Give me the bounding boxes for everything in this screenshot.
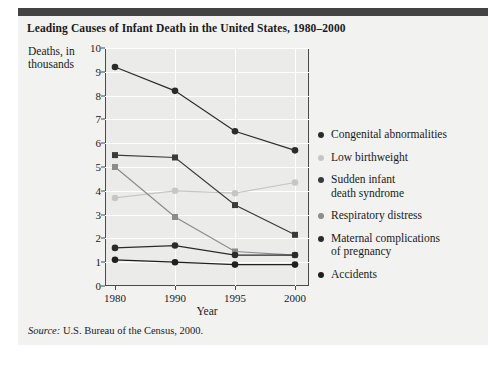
data-point: [232, 261, 239, 268]
legend-marker-icon: [318, 236, 324, 242]
legend-item-label: Maternal complications of pregnancy: [331, 232, 493, 259]
source-value: U.S. Bureau of the Census, 2000.: [60, 325, 203, 336]
legend-item[interactable]: Respiratory distress: [318, 209, 493, 223]
data-point: [172, 188, 179, 195]
data-point: [112, 195, 119, 202]
series-1: [112, 179, 299, 201]
plot-area: 012345678910 1980199019952000: [105, 48, 309, 286]
x-tick-label: 1980: [104, 292, 126, 304]
legend-marker-icon: [318, 177, 324, 183]
legend-marker-icon: [318, 272, 324, 278]
data-point: [232, 190, 239, 197]
series-5: [112, 257, 299, 268]
legend-item-label: Low birthweight: [331, 151, 493, 165]
source-label: Source:: [28, 325, 60, 336]
x-tick-label: 1995: [224, 292, 246, 304]
source-note: Source: U.S. Bureau of the Census, 2000.: [28, 325, 203, 336]
legend-marker-icon: [318, 132, 324, 138]
data-point: [112, 164, 118, 170]
x-tick-mark: [175, 286, 176, 290]
data-point: [292, 147, 299, 154]
legend-item-label: Respiratory distress: [331, 209, 493, 223]
legend-marker-icon: [318, 213, 324, 219]
series-line: [115, 167, 295, 255]
data-point: [112, 257, 119, 264]
x-tick-mark: [235, 286, 236, 290]
data-point: [112, 152, 118, 158]
data-point: [232, 128, 239, 135]
data-point: [172, 154, 178, 160]
data-point: [172, 214, 178, 220]
data-point: [172, 88, 179, 95]
chart-legend: Congenital abnormalitiesLow birthweightS…: [318, 128, 493, 290]
legend-item-label: Sudden infant death syndrome: [331, 173, 493, 200]
legend-item[interactable]: Congenital abnormalities: [318, 128, 493, 142]
x-tick-label: 2000: [284, 292, 306, 304]
data-point: [292, 179, 299, 186]
series-4: [112, 242, 299, 258]
y-tick-label: 10: [90, 42, 101, 54]
data-point: [112, 64, 119, 71]
data-series-layer: [105, 48, 309, 286]
legend-item[interactable]: Maternal complications of pregnancy: [318, 232, 493, 259]
data-point: [112, 245, 119, 252]
x-tick-mark: [295, 286, 296, 290]
data-point: [292, 252, 299, 259]
figure-root: Leading Causes of Infant Death in the Un…: [0, 0, 503, 367]
data-point: [292, 232, 298, 238]
chart-title: Leading Causes of Infant Death in the Un…: [27, 22, 467, 34]
legend-item[interactable]: Sudden infant death syndrome: [318, 173, 493, 200]
series-0: [112, 64, 299, 154]
legend-item-label: Congenital abnormalities: [331, 128, 493, 142]
data-point: [232, 202, 238, 208]
x-tick-label: 1990: [164, 292, 186, 304]
data-point: [292, 261, 299, 268]
x-tick-mark: [115, 286, 116, 290]
series-3: [112, 164, 298, 258]
data-point: [172, 259, 179, 266]
header-rule: [18, 8, 488, 16]
data-point: [172, 242, 179, 249]
data-point: [232, 252, 239, 259]
x-axis-title: Year: [105, 305, 309, 317]
legend-item[interactable]: Accidents: [318, 268, 493, 282]
legend-item-label: Accidents: [331, 268, 493, 282]
legend-item[interactable]: Low birthweight: [318, 151, 493, 165]
series-line: [115, 67, 295, 150]
series-line: [115, 260, 295, 265]
legend-marker-icon: [318, 155, 324, 161]
